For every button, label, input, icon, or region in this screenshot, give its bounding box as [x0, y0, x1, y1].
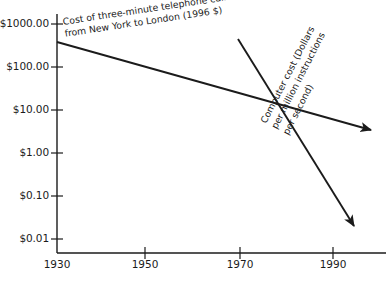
- y-tick-label-1000: $1000.00: [0, 17, 49, 29]
- y-tick-label-0-01: $0.01: [19, 232, 49, 244]
- x-tick-label-1970: 1970: [227, 258, 254, 270]
- x-tick-label-1930: 1930: [44, 258, 71, 270]
- chart-container: $1000.00 $100.00 $10.00 $1.00 $0.10 $0.0…: [0, 0, 391, 287]
- x-tick-label-1990: 1990: [320, 258, 347, 270]
- y-tick-label-1: $1.00: [19, 146, 49, 158]
- x-tick-label-1950: 1950: [132, 258, 159, 270]
- y-tick-label-0-10: $0.10: [19, 189, 49, 201]
- y-tick-label-10: $10.00: [13, 103, 49, 115]
- y-tick-label-100: $100.00: [6, 60, 49, 72]
